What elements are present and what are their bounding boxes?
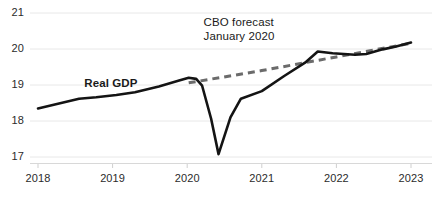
x-tick-label: 2019 bbox=[83, 172, 143, 184]
real-gdp-label: Real GDP bbox=[84, 77, 137, 91]
x-tick-label: 2021 bbox=[232, 172, 292, 184]
y-tick-label: 17 bbox=[2, 150, 24, 162]
y-tick-label: 18 bbox=[2, 114, 24, 126]
cbo-forecast-label-line1: CBO forecast bbox=[204, 16, 275, 30]
x-tick-label: 2022 bbox=[306, 172, 366, 184]
y-tick-label: 20 bbox=[2, 42, 24, 54]
gdp-forecast-chart: 1718192021 201820192020202120222023 Real… bbox=[0, 0, 440, 203]
cbo-forecast-label: CBO forecast January 2020 bbox=[204, 16, 275, 43]
x-tick-label: 2020 bbox=[157, 172, 217, 184]
real-gdp-line bbox=[38, 43, 411, 155]
cbo-forecast-label-line2: January 2020 bbox=[204, 30, 275, 44]
x-tick-label: 2023 bbox=[381, 172, 440, 184]
x-tick-label: 2018 bbox=[8, 172, 68, 184]
y-tick-label: 21 bbox=[2, 6, 24, 18]
x-tick-marks bbox=[38, 164, 411, 169]
y-tick-label: 19 bbox=[2, 78, 24, 90]
